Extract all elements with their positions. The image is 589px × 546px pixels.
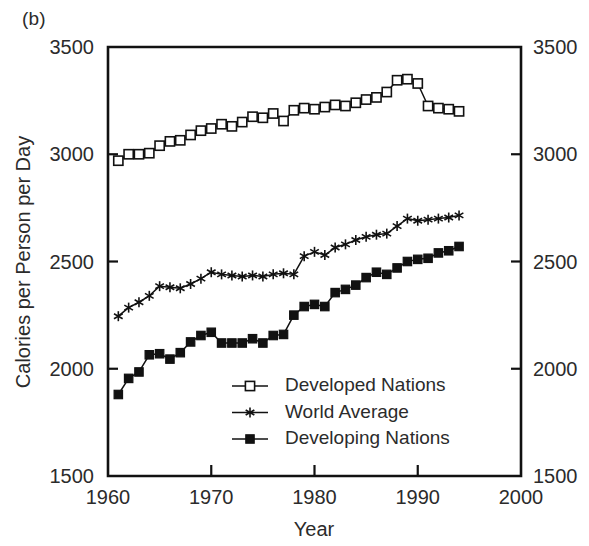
marker-filled-square xyxy=(310,300,318,308)
legend-label: Developing Nations xyxy=(285,427,450,448)
chart-canvas: 15002000250030003500 1500200025003000350… xyxy=(0,0,589,546)
marker-filled-square xyxy=(341,285,349,293)
marker-open-square xyxy=(444,105,453,114)
marker-filled-square xyxy=(217,339,225,347)
marker-open-square xyxy=(155,141,164,150)
marker-star xyxy=(331,243,340,253)
marker-open-square xyxy=(207,124,216,133)
figure-container: (b) 15002000250030003500 150020002500300… xyxy=(0,0,589,546)
marker-filled-square xyxy=(445,247,453,255)
marker-open-square xyxy=(413,79,422,88)
marker-filled-square xyxy=(114,390,122,398)
marker-filled-square xyxy=(290,311,298,319)
y-tick-label-left: 2000 xyxy=(50,358,95,380)
marker-filled-square xyxy=(155,350,163,358)
marker-open-square xyxy=(245,381,254,390)
marker-filled-square xyxy=(393,264,401,272)
x-axis-title: Year xyxy=(294,518,335,540)
marker-filled-square xyxy=(145,351,153,359)
marker-filled-square xyxy=(434,249,442,257)
marker-filled-square xyxy=(424,254,432,262)
marker-open-square xyxy=(238,117,247,126)
marker-star xyxy=(341,239,350,249)
marker-open-square xyxy=(165,137,174,146)
marker-open-square xyxy=(300,104,309,113)
marker-filled-square xyxy=(269,331,277,339)
marker-star xyxy=(300,251,309,261)
marker-filled-square xyxy=(238,339,246,347)
x-tick-label: 1990 xyxy=(396,486,441,508)
marker-filled-square xyxy=(197,331,205,339)
marker-open-square xyxy=(341,101,350,110)
marker-open-square xyxy=(320,102,329,111)
marker-filled-square xyxy=(176,348,184,356)
marker-filled-square xyxy=(331,288,339,296)
x-axis-labels: 19601970198019902000 xyxy=(86,486,544,508)
marker-filled-square xyxy=(135,368,143,376)
series-developed-nations xyxy=(114,75,464,166)
legend-label: World Average xyxy=(285,401,409,422)
marker-open-square xyxy=(176,136,185,145)
marker-star xyxy=(114,311,123,321)
marker-open-square xyxy=(362,95,371,104)
marker-star xyxy=(124,303,133,313)
y-tick-label-right: 1500 xyxy=(533,465,578,487)
marker-filled-square xyxy=(321,302,329,310)
y-axis-title: Calories per Person per Day xyxy=(12,136,34,388)
marker-open-square xyxy=(454,107,463,116)
y-axis-labels-right: 15002000250030003500 xyxy=(533,36,578,487)
legend-item: Developed Nations xyxy=(232,374,446,395)
marker-open-square xyxy=(248,112,257,121)
marker-open-square xyxy=(279,116,288,125)
marker-open-square xyxy=(196,126,205,135)
marker-open-square xyxy=(393,76,402,85)
marker-open-square xyxy=(423,101,432,110)
y-tick-label-right: 3000 xyxy=(533,143,578,165)
marker-open-square xyxy=(382,87,391,96)
marker-open-square xyxy=(372,93,381,102)
marker-filled-square xyxy=(362,273,370,281)
marker-open-square xyxy=(145,149,154,158)
marker-open-square xyxy=(134,150,143,159)
legend-item: World Average xyxy=(232,401,409,422)
y-tick-label-left: 2500 xyxy=(50,251,95,273)
marker-filled-square xyxy=(403,257,411,265)
y-tick-label-left: 3500 xyxy=(50,36,95,58)
series-layer xyxy=(114,75,464,399)
marker-open-square xyxy=(124,150,133,159)
marker-filled-square xyxy=(246,435,254,443)
marker-open-square xyxy=(258,113,267,122)
marker-star xyxy=(135,297,144,307)
y-tick-label-left: 3000 xyxy=(50,143,95,165)
x-tick-label: 1970 xyxy=(189,486,234,508)
y-tick-label-right: 2500 xyxy=(533,251,578,273)
marker-star xyxy=(351,235,360,245)
marker-filled-square xyxy=(279,330,287,338)
marker-star xyxy=(197,274,206,284)
marker-open-square xyxy=(186,130,195,139)
legend-label: Developed Nations xyxy=(285,374,446,395)
marker-star xyxy=(320,250,329,260)
y-axis-ticks-left xyxy=(108,154,118,369)
marker-open-square xyxy=(217,120,226,129)
marker-star xyxy=(393,221,402,231)
marker-open-square xyxy=(289,106,298,115)
marker-filled-square xyxy=(300,302,308,310)
marker-open-square xyxy=(227,122,236,131)
legend-item: Developing Nations xyxy=(232,427,450,448)
chart-legend: Developed NationsWorld AverageDeveloping… xyxy=(232,374,450,448)
marker-filled-square xyxy=(414,255,422,263)
marker-open-square xyxy=(310,105,319,114)
y-tick-label-left: 1500 xyxy=(50,465,95,487)
marker-filled-square xyxy=(228,339,236,347)
marker-open-square xyxy=(331,100,340,109)
marker-filled-square xyxy=(259,339,267,347)
marker-filled-square xyxy=(124,374,132,382)
y-tick-label-right: 2000 xyxy=(533,358,578,380)
marker-star xyxy=(310,247,319,257)
y-axis-ticks-right xyxy=(511,154,521,369)
x-tick-label: 1980 xyxy=(292,486,337,508)
marker-open-square xyxy=(114,156,123,165)
marker-open-square xyxy=(434,104,443,113)
marker-filled-square xyxy=(352,281,360,289)
